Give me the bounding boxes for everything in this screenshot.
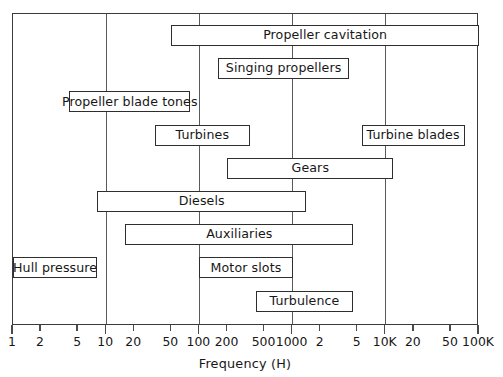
x-tick-2 (319, 325, 320, 331)
bar-label: Auxiliaries (199, 228, 279, 241)
bar-label: Turbulence (263, 295, 347, 308)
x-axis-title: Frequency (H) (12, 356, 478, 371)
plot-area: Propeller cavitationSinging propellersPr… (12, 13, 478, 325)
bar-singing-propellers: Singing propellers (218, 58, 348, 79)
x-tick-5 (76, 325, 77, 331)
x-tick-label: 10K (373, 336, 397, 348)
bar-auxiliaries: Auxiliaries (125, 224, 353, 245)
x-tick-5 (356, 325, 357, 331)
x-tick-20 (412, 325, 413, 331)
bar-turbines: Turbines (155, 125, 251, 146)
x-tick-10 (105, 325, 106, 334)
x-axis: 12510205010020050010002510K2050100K Freq… (12, 325, 478, 377)
x-tick-label: 2 (36, 336, 44, 348)
x-tick-label: 50 (442, 336, 458, 348)
bar-propeller-cavitation: Propeller cavitation (171, 25, 479, 46)
x-tick-50 (170, 325, 171, 331)
x-tick-1000 (291, 325, 292, 334)
x-tick-label: 5 (73, 336, 81, 348)
x-tick-label: 100 (187, 336, 211, 348)
bar-label: Propeller blade tones (55, 96, 205, 109)
bar-label: Gears (285, 162, 336, 175)
bar-hull-pressure: Hull pressure (13, 257, 97, 278)
bar-label: Propeller cavitation (256, 29, 394, 42)
x-tick-label: 500 (252, 336, 276, 348)
bar-diesels: Diesels (97, 191, 306, 212)
bar-label: Turbine blades (360, 129, 467, 142)
x-tick-100 (198, 325, 199, 334)
frequency-range-chart: Propeller cavitationSinging propellersPr… (0, 0, 503, 377)
x-tick-label: 20 (405, 336, 421, 348)
bar-turbine-blades: Turbine blades (362, 125, 465, 146)
x-tick-label: 20 (125, 336, 141, 348)
x-tick-1 (11, 325, 12, 334)
x-tick-label: 1000 (276, 336, 308, 348)
bar-label: Diesels (172, 195, 232, 208)
x-tick-500 (263, 325, 264, 331)
x-tick-label: 100K (462, 336, 494, 348)
bar-label: Turbines (169, 129, 237, 142)
x-tick-20 (133, 325, 134, 331)
x-tick-label: 2 (316, 336, 324, 348)
gridline-10hz (106, 14, 107, 324)
bar-turbulence: Turbulence (256, 291, 354, 312)
bar-propeller-blade-tones: Propeller blade tones (69, 91, 190, 112)
x-tick-10K (384, 325, 385, 334)
x-tick-50 (449, 325, 450, 331)
x-tick-label: 50 (162, 336, 178, 348)
x-tick-2 (39, 325, 40, 331)
x-tick-100K (477, 325, 478, 334)
bar-label: Motor slots (204, 262, 289, 275)
bar-label: Hull pressure (6, 262, 104, 275)
x-tick-label: 200 (215, 336, 239, 348)
x-tick-label: 10 (97, 336, 113, 348)
bar-motor-slots: Motor slots (199, 257, 292, 278)
x-tick-label: 1 (8, 336, 16, 348)
x-tick-200 (226, 325, 227, 331)
bar-gears: Gears (227, 158, 393, 179)
bar-label: Singing propellers (219, 62, 349, 75)
x-tick-label: 5 (353, 336, 361, 348)
